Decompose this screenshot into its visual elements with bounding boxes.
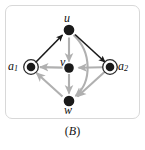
edge-a2-w [78,72,105,97]
edge-a2-v [79,67,103,68]
figure-panel-b: u v w a1 a2 (B) [0,0,145,150]
node-a2[interactable] [103,60,118,75]
node-label-v: v [60,56,65,68]
node-label-w: w [64,104,72,116]
node-label-a1-subscript: 1 [14,64,18,73]
node-label-u: u [64,12,70,24]
edge-a1-u [36,35,63,63]
node-label-a2: a2 [118,60,128,74]
node-a1-core [27,63,36,72]
node-group [24,25,118,107]
edge-group-black [36,35,106,63]
node-label-a1: a1 [8,60,18,74]
node-a1[interactable] [24,60,39,75]
figure-caption: (B) [0,124,145,139]
node-v[interactable] [64,63,74,73]
node-label-a2-subscript: 2 [124,64,128,73]
node-a2-core [106,63,115,72]
edge-u-a2 [75,35,105,63]
caption-close-paren: ) [76,124,80,138]
node-u[interactable] [64,25,75,36]
edge-w-a1 [37,73,63,97]
